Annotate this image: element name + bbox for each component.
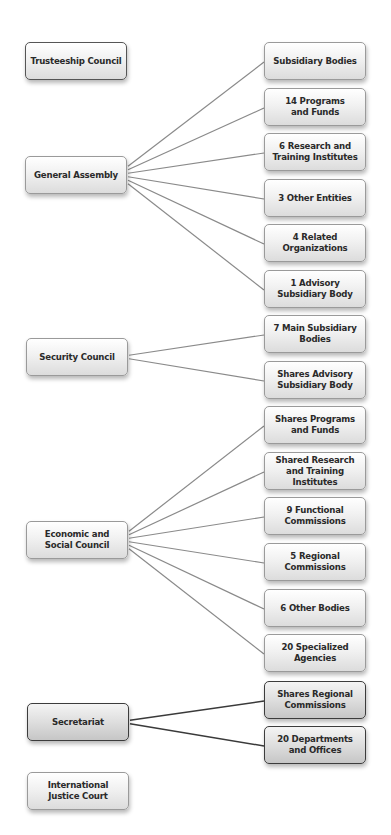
node-departments-and-offices: 20 Departments and Offices bbox=[264, 726, 366, 764]
node-main-subsidiary-bodies: 7 Main Subsidiary Bodies bbox=[264, 315, 366, 353]
node-programs-and-funds: 14 Programs and Funds bbox=[264, 88, 366, 126]
connector-line bbox=[128, 62, 264, 166]
node-secretariat: Secretariat bbox=[27, 703, 129, 741]
node-shares-programs-and-funds: Shares Programs and Funds bbox=[264, 406, 366, 444]
node-regional-commissions: 5 Regional Commissions bbox=[264, 543, 366, 581]
connector-line bbox=[128, 108, 264, 170]
node-advisory-subsidiary-body: 1 Advisory Subsidiary Body bbox=[264, 270, 366, 308]
connector-line bbox=[130, 701, 264, 720]
node-security-council: Security Council bbox=[26, 338, 128, 376]
connector-line bbox=[129, 549, 264, 654]
node-shares-advisory-subsidiary-body: Shares Advisory Subsidiary Body bbox=[264, 361, 366, 399]
connector-line bbox=[129, 335, 264, 355]
node-trusteeship-council: Trusteeship Council bbox=[25, 42, 127, 80]
node-other-entities: 3 Other Entities bbox=[264, 179, 366, 217]
connector-line bbox=[128, 177, 264, 199]
node-other-bodies: 6 Other Bodies bbox=[264, 589, 366, 627]
node-subsidiary-bodies: Subsidiary Bodies bbox=[264, 42, 366, 80]
connector-line bbox=[129, 359, 264, 381]
connector-line bbox=[129, 472, 264, 535]
connector-line bbox=[129, 545, 264, 609]
node-related-organizations: 4 Related Organizations bbox=[264, 224, 366, 262]
node-international-justice-court: International Justice Court bbox=[27, 772, 129, 810]
connector-line bbox=[128, 180, 264, 244]
node-shared-research-training-institutes: Shared Research and Training Institutes bbox=[264, 452, 366, 490]
node-specialized-agencies: 20 Specialized Agencies bbox=[264, 634, 366, 672]
node-shares-regional-commissions: Shares Regional Commissions bbox=[264, 681, 366, 719]
node-general-assembly: General Assembly bbox=[25, 156, 127, 194]
node-research-training-institutes: 6 Research and Training Institutes bbox=[264, 133, 366, 171]
connector-line bbox=[128, 153, 264, 173]
connector-line bbox=[129, 542, 264, 563]
connector-line bbox=[129, 426, 264, 531]
un-structure-diagram: Trusteeship Council General Assembly Sec… bbox=[0, 0, 391, 835]
connector-line bbox=[130, 724, 264, 746]
node-functional-commissions: 9 Functional Commissions bbox=[264, 497, 366, 535]
connector-line bbox=[128, 184, 264, 290]
connector-line bbox=[129, 517, 264, 538]
node-economic-social-council: Economic and Social Council bbox=[26, 521, 128, 559]
